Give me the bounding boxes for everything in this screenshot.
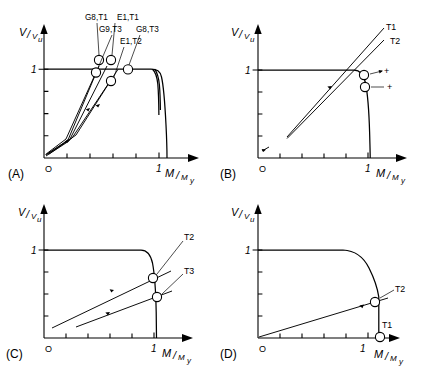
marker-t1-d bbox=[375, 332, 384, 341]
origin-label-d: O bbox=[259, 344, 266, 354]
svg-text:y: y bbox=[186, 356, 192, 365]
x-axis-arrowhead bbox=[389, 334, 400, 342]
origin-label-c: O bbox=[45, 344, 52, 354]
envelope-curve-b bbox=[258, 70, 370, 158]
x-tick-label-1-b: 1 bbox=[365, 163, 371, 174]
series-label-t2-d: T2 bbox=[395, 284, 405, 294]
svg-text:y: y bbox=[400, 176, 406, 185]
annotation-arrowhead bbox=[379, 70, 383, 73]
svg-text:/: / bbox=[26, 28, 31, 40]
y-axis-title-a: V / V u bbox=[19, 26, 43, 44]
svg-text:M: M bbox=[165, 167, 175, 179]
x-axis-arrowhead bbox=[396, 154, 407, 162]
panel-label-c: (C) bbox=[6, 347, 23, 361]
y-axis-arrowhead bbox=[40, 24, 47, 34]
path-arrowhead bbox=[110, 289, 114, 292]
panel-label-d: (D) bbox=[220, 347, 237, 361]
svg-text:u: u bbox=[250, 215, 255, 224]
x-axis-title-b: M / M y bbox=[376, 167, 406, 185]
path-arrowhead bbox=[86, 108, 90, 112]
marker-t2-d bbox=[370, 297, 379, 306]
svg-text:u: u bbox=[250, 35, 255, 44]
svg-text:/: / bbox=[238, 28, 243, 40]
y-axis-arrowhead bbox=[254, 24, 261, 34]
marker-e1-t1 bbox=[106, 55, 115, 64]
marker-g8-t3 bbox=[123, 65, 132, 74]
y-axis-title-d: V / V u bbox=[231, 206, 255, 224]
svg-text:M: M bbox=[376, 167, 386, 179]
axes-panel-b bbox=[253, 24, 407, 162]
y-tick-label-1-c: 1 bbox=[31, 245, 37, 256]
plus-annotations-b: + + bbox=[370, 66, 392, 92]
y-axis-title-c: V / V u bbox=[18, 206, 42, 224]
svg-text:/: / bbox=[386, 169, 391, 181]
series-label-g8-t3: G8,T3 bbox=[136, 25, 159, 34]
label-leaders-d bbox=[380, 290, 394, 298]
annotation-plus-1: + bbox=[384, 66, 389, 76]
x-axis-title-a: M / M y bbox=[165, 167, 195, 185]
marker-g8-t1 bbox=[94, 55, 103, 64]
svg-text:/: / bbox=[384, 350, 389, 362]
x-axis-title-d: M / M y bbox=[374, 348, 404, 366]
marker-t3-c bbox=[152, 292, 161, 301]
marker-t1-b bbox=[359, 70, 368, 79]
marker-t2-b bbox=[360, 82, 369, 91]
svg-text:y: y bbox=[398, 357, 404, 366]
series-label-t2-c: T2 bbox=[184, 232, 194, 242]
marker-t2-c bbox=[148, 273, 157, 282]
series-label-g8-t1: G8,T1 bbox=[85, 13, 108, 22]
label-leaders-c bbox=[157, 241, 183, 294]
x-axis-title-c: M / M y bbox=[162, 347, 192, 365]
panel-d: T2 T1 V / V u M / M y 1 1 O (D) bbox=[214, 190, 428, 380]
svg-text:M: M bbox=[374, 348, 384, 360]
y-tick-label-1-b: 1 bbox=[245, 65, 251, 76]
series-label-t1-b: T1 bbox=[386, 22, 396, 32]
marker-e1-t2 bbox=[106, 76, 115, 85]
y-tick-label-1-a: 1 bbox=[31, 64, 37, 75]
y-axis-arrowhead bbox=[254, 204, 261, 214]
axes-panel-d bbox=[253, 204, 400, 342]
panel-a: G8,T1 E1,T1 G9,T3 G8,T3 E1,T2 V / V u M … bbox=[0, 0, 214, 190]
path-arrowhead bbox=[96, 104, 100, 108]
svg-text:y: y bbox=[189, 176, 195, 185]
loading-paths-d bbox=[259, 298, 388, 337]
envelope-curve-d bbox=[258, 250, 379, 338]
series-label-e1-t1: E1,T1 bbox=[117, 13, 139, 22]
origin-label-a: O bbox=[45, 164, 52, 174]
envelope-curve-c bbox=[44, 250, 157, 338]
svg-text:/: / bbox=[25, 208, 30, 220]
panel-b: + + T1 T2 V / V u M / M y 1 1 O (B) bbox=[214, 0, 428, 190]
y-axis-title-b: V / V u bbox=[231, 26, 255, 44]
series-label-t3-c: T3 bbox=[184, 266, 194, 276]
panel-c: T2 T3 V / V u M / M y 1 1 O (C) bbox=[0, 190, 214, 380]
svg-text:M: M bbox=[162, 347, 172, 359]
annotation-plus-2: + bbox=[387, 82, 392, 92]
svg-text:M: M bbox=[392, 173, 399, 182]
svg-text:M: M bbox=[181, 173, 188, 182]
svg-text:/: / bbox=[175, 169, 180, 181]
panel-label-a: (A) bbox=[8, 167, 24, 181]
svg-text:u: u bbox=[37, 215, 42, 224]
origin-label-b: O bbox=[259, 164, 266, 174]
x-tick-label-1-c: 1 bbox=[151, 343, 157, 354]
data-markers-a bbox=[91, 55, 132, 85]
y-axis-arrowhead bbox=[40, 204, 47, 214]
y-tick-label-1-d: 1 bbox=[245, 245, 251, 256]
panel-label-b: (B) bbox=[220, 167, 236, 181]
svg-text:/: / bbox=[238, 208, 243, 220]
series-label-t2-b: T2 bbox=[390, 36, 400, 46]
series-label-g9-t3: G9,T3 bbox=[99, 25, 122, 34]
svg-text:u: u bbox=[38, 35, 43, 44]
x-axis-arrowhead bbox=[188, 154, 199, 162]
marker-g9-t3 bbox=[91, 68, 100, 77]
x-axis-arrowhead bbox=[182, 334, 193, 342]
series-label-t1-d: T1 bbox=[382, 320, 392, 330]
svg-text:/: / bbox=[172, 349, 177, 361]
svg-text:M: M bbox=[390, 354, 397, 363]
x-tick-label-1-d: 1 bbox=[360, 343, 366, 354]
x-tick-label-1-a: 1 bbox=[156, 163, 162, 174]
svg-text:M: M bbox=[178, 353, 185, 362]
axes-panel-c bbox=[39, 204, 193, 342]
